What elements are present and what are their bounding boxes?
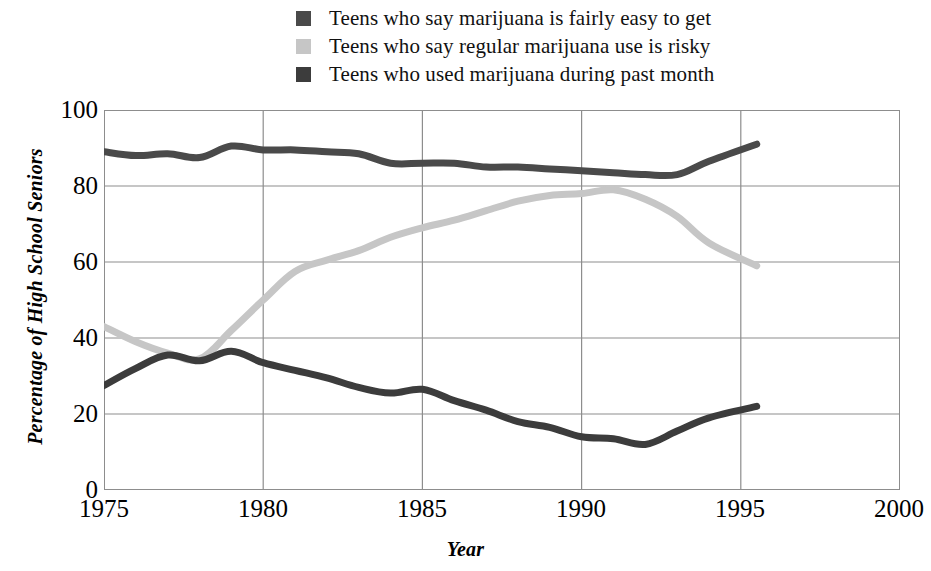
- y-tick-label: 100: [36, 97, 98, 122]
- x-axis-title: Year: [0, 538, 931, 561]
- series-line: [104, 144, 757, 176]
- x-tick-label: 1995: [685, 495, 795, 523]
- legend-item-label: Teens who say regular marijuana use is r…: [329, 32, 710, 60]
- chart-legend: Teens who say marijuana is fairly easy t…: [296, 4, 856, 88]
- legend-swatch-icon: [296, 39, 311, 54]
- x-tick-label: 1985: [367, 495, 477, 523]
- chart-container: Teens who say marijuana is fairly easy t…: [0, 0, 931, 571]
- legend-swatch-icon: [296, 11, 311, 26]
- x-axis-ticks: 1975 1980 1985 1990 1995 2000: [0, 495, 931, 535]
- legend-item-label: Teens who say marijuana is fairly easy t…: [329, 4, 711, 32]
- legend-swatch-icon: [296, 67, 311, 82]
- x-tick-label: 1990: [526, 495, 636, 523]
- legend-item: Teens who say regular marijuana use is r…: [296, 32, 856, 60]
- x-tick-label: 2000: [844, 495, 931, 523]
- y-axis-title: Percentage of High School Seniors: [24, 127, 47, 467]
- legend-item-label: Teens who used marijuana during past mon…: [329, 60, 714, 88]
- series-line: [104, 190, 757, 361]
- series-line: [104, 351, 757, 444]
- plot-area: [104, 110, 900, 490]
- x-tick-label: 1980: [208, 495, 318, 523]
- legend-item: Teens who say marijuana is fairly easy t…: [296, 4, 856, 32]
- legend-item: Teens who used marijuana during past mon…: [296, 60, 856, 88]
- x-tick-label: 1975: [49, 495, 159, 523]
